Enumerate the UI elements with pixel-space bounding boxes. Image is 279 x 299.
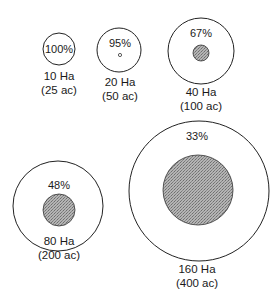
acre-label-10ha: (25 ac) <box>41 84 77 96</box>
circle-group-80ha: 48% 80 Ha (200 ac) <box>13 161 103 261</box>
acre-label-20ha: (50 ac) <box>102 90 138 102</box>
inner-circle-20ha <box>118 53 121 56</box>
inner-circle-80ha <box>43 194 75 226</box>
circle-group-160ha: 33% 160 Ha (400 ac) <box>129 121 269 289</box>
hectare-label-80ha: 80 Ha <box>44 235 75 247</box>
percent-label-160ha: 33% <box>186 130 208 142</box>
inner-circle-40ha <box>193 45 209 61</box>
circle-group-20ha: 95% 20 Ha (50 ac) <box>97 28 141 102</box>
circle-group-40ha: 67% 40 Ha (100 ac) <box>168 18 234 112</box>
hectare-label-40ha: 40 Ha <box>186 86 217 98</box>
circle-group-10ha: 100% 10 Ha (25 ac) <box>41 33 77 96</box>
acre-label-80ha: (200 ac) <box>38 249 80 261</box>
outer-circle-20ha <box>97 28 141 72</box>
hectare-label-10ha: 10 Ha <box>44 70 75 82</box>
percent-label-80ha: 48% <box>48 179 70 191</box>
area-diagram: 100% 10 Ha (25 ac) 95% 20 Ha (50 ac) 67%… <box>0 0 279 299</box>
acre-label-160ha: (400 ac) <box>176 277 218 289</box>
hectare-label-20ha: 20 Ha <box>105 76 136 88</box>
percent-label-20ha: 95% <box>109 37 131 49</box>
hectare-label-160ha: 160 Ha <box>178 263 216 275</box>
inner-circle-160ha <box>163 155 233 225</box>
acre-label-40ha: (100 ac) <box>180 100 222 112</box>
percent-label-10ha: 100% <box>45 43 73 55</box>
percent-label-40ha: 67% <box>190 27 212 39</box>
